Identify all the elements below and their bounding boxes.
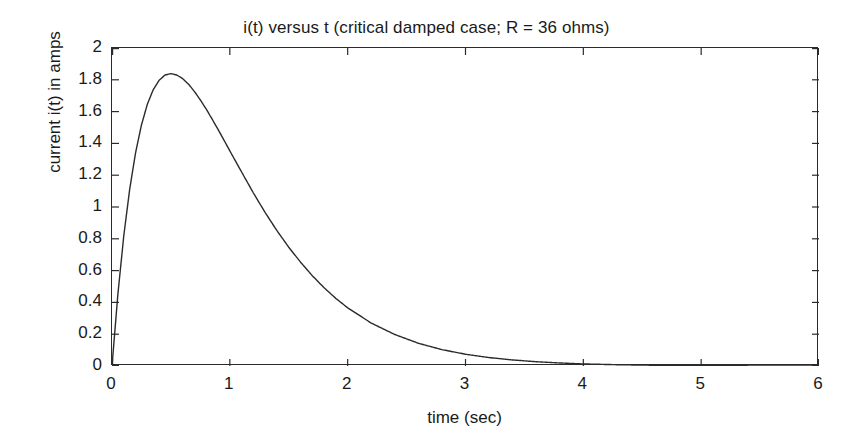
figure-canvas: i(t) versus t (critical damped case; R =… <box>0 0 853 443</box>
axis-tick-marks <box>112 48 819 366</box>
x-tick-label: 5 <box>695 374 704 394</box>
x-tick-label: 1 <box>224 374 233 394</box>
y-tick-label: 0.6 <box>12 260 102 280</box>
y-tick-label: 2 <box>12 37 102 57</box>
y-axis-tick-labels: 00.20.40.60.811.21.41.61.82 <box>0 47 102 365</box>
y-tick-label: 1.4 <box>12 132 102 152</box>
y-tick-label: 0.8 <box>12 228 102 248</box>
y-tick-label: 1.2 <box>12 164 102 184</box>
plot-svg <box>112 48 819 366</box>
chart-title: i(t) versus t (critical damped case; R =… <box>0 18 853 38</box>
y-tick-label: 0.2 <box>12 323 102 343</box>
y-tick-label: 1 <box>12 196 102 216</box>
x-tick-label: 3 <box>460 374 469 394</box>
y-tick-label: 1.6 <box>12 101 102 121</box>
y-tick-label: 0 <box>12 355 102 375</box>
x-axis-tick-labels: 0123456 <box>111 374 818 398</box>
data-series-line <box>112 74 819 366</box>
y-tick-label: 1.8 <box>12 69 102 89</box>
x-tick-label: 4 <box>578 374 587 394</box>
plot-area <box>111 47 818 365</box>
x-tick-label: 0 <box>106 374 115 394</box>
x-tick-label: 2 <box>342 374 351 394</box>
x-axis-label: time (sec) <box>111 408 818 428</box>
x-tick-label: 6 <box>813 374 822 394</box>
y-tick-label: 0.4 <box>12 291 102 311</box>
